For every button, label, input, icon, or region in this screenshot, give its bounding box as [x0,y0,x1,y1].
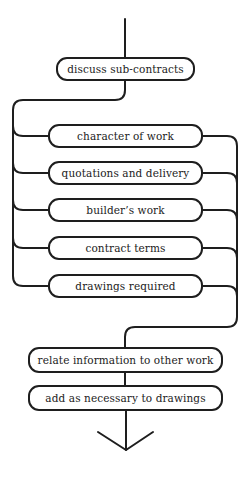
flowchart: discuss sub-contracts character of work … [0,0,251,477]
left-branch-4 [13,238,48,248]
right-branch-2 [203,173,237,183]
step-box-character: character of work [48,124,203,148]
start-box: discuss sub-contracts [56,57,195,81]
step-label: character of work [77,130,174,142]
end-label: add as necessary to drawings [45,392,205,404]
step-box-drawings-required: drawings required [48,274,203,298]
right-branch-5 [203,286,237,296]
right-branch-4 [203,248,237,258]
end-box-relate-information: relate information to other work [28,347,223,373]
step-label: builder’s work [86,204,164,216]
end-label: relate information to other work [38,354,214,366]
step-box-builders-work: builder’s work [48,198,203,222]
step-box-quotations: quotations and delivery [48,161,203,185]
right-branch-3 [203,210,237,220]
end-box-add-to-drawings: add as necessary to drawings [28,385,223,411]
step-label: drawings required [75,280,175,292]
step-box-contract-terms: contract terms [48,236,203,260]
start-box-label: discuss sub-contracts [67,63,184,75]
left-branch-1 [13,126,48,136]
step-label: quotations and delivery [62,167,190,179]
left-branch-2 [13,163,48,173]
left-branch-3 [13,200,48,210]
step-label: contract terms [85,242,165,254]
